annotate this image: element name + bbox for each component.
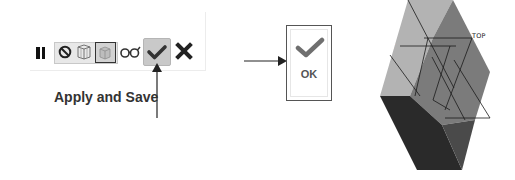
right-arrow-annotation [244, 54, 288, 68]
ok-checkmark-icon [295, 36, 325, 60]
wireframe-icon[interactable] [75, 43, 95, 61]
cancel-x-icon[interactable] [175, 42, 193, 60]
view-cube[interactable]: FRONT TOP RIGHT [370, 0, 515, 180]
shaded-icon[interactable] [95, 42, 116, 63]
pause-icon[interactable] [36, 46, 47, 59]
right-label: RIGHT [417, 169, 438, 177]
glasses-view-icon[interactable] [119, 45, 141, 59]
ok-button[interactable]: OK [286, 25, 332, 101]
apply-and-save-label: Apply and Save [54, 89, 158, 105]
no-hidden-icon[interactable] [57, 44, 73, 60]
front-label: FRONT [372, 43, 395, 51]
ok-label: OK [287, 68, 331, 80]
top-label: TOP [471, 32, 486, 40]
